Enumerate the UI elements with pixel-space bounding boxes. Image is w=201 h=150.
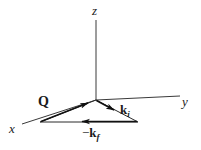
ki-vector-label: ki bbox=[120, 103, 130, 116]
z-axis-label: z bbox=[92, 4, 97, 17]
ki-vector-arrow bbox=[97, 101, 115, 111]
figure-canvas: z y x Q ki −kf bbox=[0, 0, 201, 150]
kf-subscript-glyph: f bbox=[97, 132, 100, 142]
y-axis-line bbox=[96, 96, 180, 100]
x-axis-label: x bbox=[9, 122, 15, 135]
scattering-geometry-diagram bbox=[0, 0, 201, 150]
kf-vector-label: −kf bbox=[82, 126, 100, 139]
kf-base-glyph: k bbox=[89, 125, 96, 140]
y-axis-label: y bbox=[182, 95, 188, 108]
ki-subscript-glyph: i bbox=[127, 109, 130, 119]
Q-vector-label: Q bbox=[38, 95, 49, 109]
